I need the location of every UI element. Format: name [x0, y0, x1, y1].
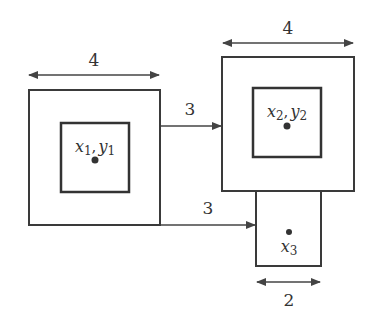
connection-label-1-2: 3 [185, 99, 196, 119]
center-label-2: x2,y2 [267, 102, 307, 123]
module-3: x3 2 [256, 191, 321, 310]
center-label-1: x1,y1 [75, 137, 115, 158]
connection-label-1-3: 3 [203, 198, 214, 218]
module-2: 4 x2,y2 [222, 18, 354, 191]
connection-1-2: 3 [161, 99, 221, 126]
center-point-3 [286, 229, 292, 235]
center-label-3: x3 [281, 237, 298, 258]
width-label-2: 4 [283, 18, 294, 38]
center-point-1 [92, 157, 99, 164]
center-point-2 [284, 123, 291, 130]
width-label-3: 2 [284, 290, 295, 310]
module-1: 4 x1,y1 [29, 50, 160, 225]
connection-1-3: 3 [161, 198, 255, 225]
width-label-1: 4 [89, 50, 100, 70]
floorplan-diagram: 4 x1,y1 4 x2,y2 x3 2 3 3 [0, 0, 379, 331]
